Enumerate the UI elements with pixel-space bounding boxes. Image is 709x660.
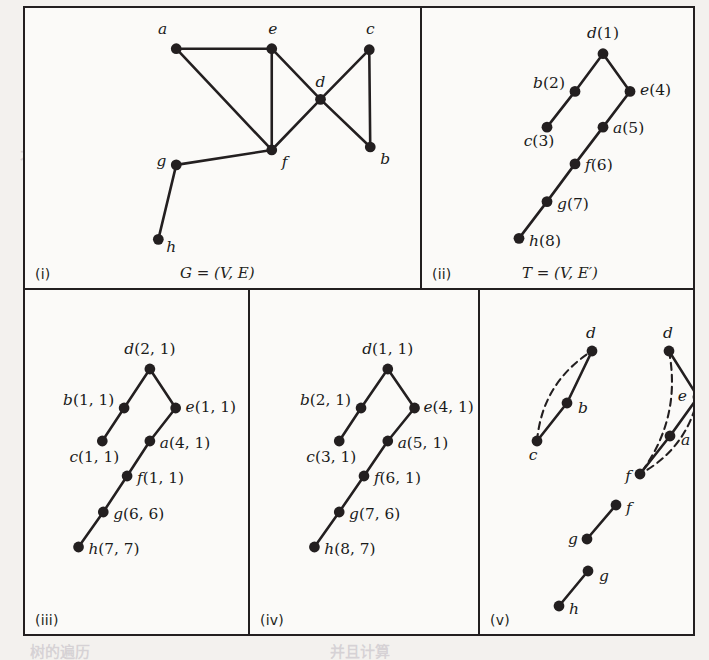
panel-i-caption: G = (V, E) — [180, 264, 255, 282]
graph-node — [153, 234, 164, 245]
graph-node — [554, 601, 565, 612]
node-label: a(5, 1) — [398, 434, 448, 452]
node-group: d(2, 1)b(1, 1)e(1, 1)c(1, 1)a(4, 1)f(1, … — [63, 340, 236, 558]
graph-node — [532, 436, 543, 447]
node-label: g — [568, 530, 578, 548]
node-label: b — [578, 399, 588, 417]
graph-edge — [124, 369, 150, 408]
node-label: f — [624, 467, 634, 485]
graph-edge — [567, 351, 592, 403]
node-label: a(4, 1) — [160, 434, 210, 452]
node-label: c — [366, 20, 375, 38]
node-label: a(5) — [613, 119, 644, 137]
graph-edge — [369, 50, 370, 147]
figure-board: aecdbfgh (i) G = (V, E) d(1)b(2)e(4)c(3)… — [23, 6, 695, 636]
graph-node — [73, 542, 84, 553]
node-label: d(2, 1) — [124, 340, 175, 358]
node-label: d(1) — [587, 24, 619, 42]
graph-edge — [102, 408, 124, 441]
panel-ii-tag: (ii) — [432, 266, 452, 282]
graph-node — [97, 436, 108, 447]
ghost-text: 树的遍历 — [30, 640, 90, 660]
graph-node — [625, 86, 636, 97]
node-label: f — [625, 499, 635, 517]
node-label: b(2, 1) — [300, 391, 351, 409]
node-label: c — [529, 446, 538, 464]
node-label: e — [678, 387, 687, 405]
node-label: h(8, 7) — [324, 540, 375, 558]
node-label: a — [158, 20, 167, 38]
graph-edge — [150, 369, 176, 408]
node-label: h(8) — [529, 232, 561, 250]
graph-node — [359, 471, 370, 482]
panel-iii: d(2, 1)b(1, 1)e(1, 1)c(1, 1)a(4, 1)f(1, … — [25, 290, 250, 634]
graph-node — [598, 122, 609, 133]
graph-node — [334, 436, 345, 447]
graph-edge — [603, 54, 630, 92]
graph-node — [119, 403, 130, 414]
graph-node — [266, 43, 277, 54]
graph-node — [583, 566, 594, 577]
node-label: g(6, 6) — [113, 505, 164, 523]
graph-edge — [575, 54, 603, 92]
node-label: g — [156, 152, 166, 170]
panel-v-tag: (v) — [490, 612, 510, 628]
graph-node — [122, 471, 133, 482]
node-label: b — [380, 150, 390, 168]
panel-ii-tree: d(1)b(2)e(4)c(3)a(5)f(6)g(7)h(8) — [422, 8, 693, 288]
graph-edge — [158, 165, 176, 239]
graph-node — [570, 159, 581, 170]
panel-v-components: dbcdeaffggh — [480, 290, 693, 634]
graph-edge — [272, 99, 321, 150]
node-label: g — [599, 567, 609, 585]
edge-group — [537, 351, 693, 606]
node-label: h — [569, 600, 579, 618]
node-label: g(7, 6) — [349, 505, 400, 523]
graph-node — [409, 403, 420, 414]
graph-edge — [547, 91, 575, 127]
graph-edge — [587, 505, 616, 539]
dashed-arc — [537, 351, 592, 441]
node-label: a — [681, 431, 690, 449]
node-label: f — [281, 153, 290, 171]
graph-node — [382, 364, 393, 375]
graph-node — [664, 346, 675, 357]
panel-i: aecdbfgh (i) G = (V, E) — [25, 8, 422, 290]
node-label: c(1, 1) — [69, 448, 119, 466]
panel-iv-tag: (iv) — [260, 612, 284, 628]
graph-node — [145, 364, 156, 375]
graph-edge — [537, 403, 567, 441]
graph-node — [315, 94, 326, 105]
node-label: g(7) — [557, 195, 589, 213]
graph-node — [266, 145, 277, 156]
graph-node — [98, 507, 109, 518]
graph-node — [309, 542, 320, 553]
graph-node — [365, 142, 376, 153]
node-label: h — [166, 238, 176, 256]
panel-ii: d(1)b(2)e(4)c(3)a(5)f(6)g(7)h(8) (ii) T … — [422, 8, 693, 290]
node-group: dbcdeaffggh — [529, 324, 693, 618]
panel-i-graph: aecdbfgh — [25, 8, 420, 288]
node-label: e — [268, 20, 277, 38]
panel-iii-tree: d(2, 1)b(1, 1)e(1, 1)c(1, 1)a(4, 1)f(1, … — [25, 290, 248, 634]
panel-iii-tag: (iii) — [35, 612, 59, 628]
panel-iv-tree: d(1, 1)b(2, 1)e(4, 1)c(3, 1)a(5, 1)f(6, … — [250, 290, 478, 634]
graph-node — [145, 436, 156, 447]
figure-root: 式。同样，在图中一个顶点的所有的边集合所示的连通图T 是一棵生成对应的树构单调性… — [0, 0, 709, 660]
edge-group — [158, 49, 370, 240]
node-label: e(1, 1) — [186, 398, 236, 416]
graph-node — [542, 122, 553, 133]
node-group: d(1, 1)b(2, 1)e(4, 1)c(3, 1)a(5, 1)f(6, … — [300, 340, 474, 558]
graph-node — [598, 48, 609, 59]
graph-node — [587, 346, 598, 357]
node-label: d — [663, 324, 673, 342]
graph-node — [542, 196, 553, 207]
node-label: e(4, 1) — [423, 398, 473, 416]
node-label: d — [586, 324, 596, 342]
node-label: f(6, 1) — [373, 469, 421, 487]
graph-edge — [176, 49, 272, 150]
node-label: f(6) — [584, 156, 613, 174]
graph-node — [582, 534, 593, 545]
panel-iv: d(1, 1)b(2, 1)e(4, 1)c(3, 1)a(5, 1)f(6, … — [250, 290, 480, 634]
node-label: d — [316, 73, 326, 91]
